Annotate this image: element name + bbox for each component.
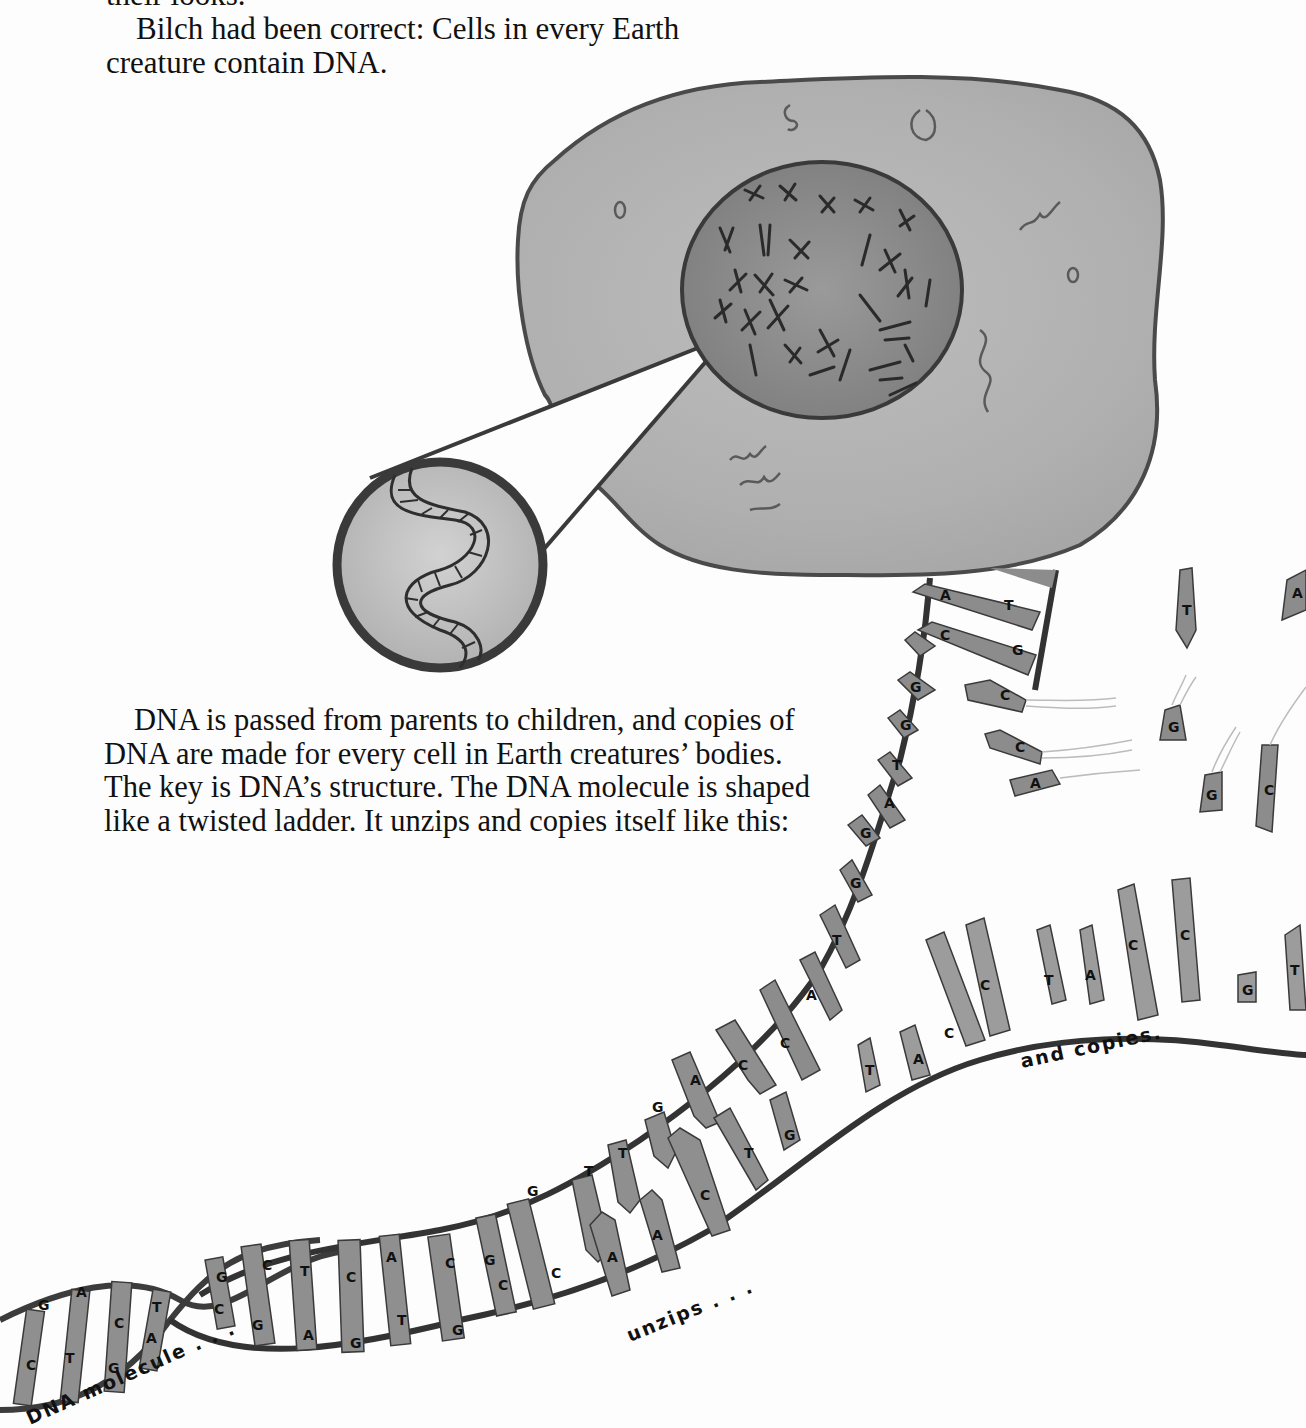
dna-illustration: G C A T C G T A G C C G T A C G A T C G bbox=[0, 0, 1306, 1428]
base-letter: A bbox=[806, 987, 817, 1003]
caption-dna-molecule: DNA molecule . . . bbox=[23, 1316, 239, 1428]
base-letter: C bbox=[1180, 927, 1190, 943]
base-letter: C bbox=[262, 1257, 272, 1273]
base-letter: T bbox=[1290, 962, 1300, 978]
base-letter: G bbox=[1242, 982, 1254, 998]
base-letter: G bbox=[784, 1127, 796, 1143]
base-letter: G bbox=[452, 1322, 464, 1338]
base-letter: G bbox=[484, 1252, 496, 1268]
base-letter: G bbox=[216, 1269, 228, 1285]
base-letter: C bbox=[498, 1277, 508, 1293]
dna-ladder-icon: G C A T C G T A G C C G T A C G A T C G bbox=[0, 568, 1306, 1428]
base-letter: C bbox=[214, 1301, 224, 1317]
base-letter: C bbox=[346, 1269, 356, 1285]
caption-unzips: unzips . . . bbox=[623, 1275, 756, 1346]
base-letter: C bbox=[1264, 782, 1274, 798]
base-letter: G bbox=[350, 1335, 362, 1351]
base-letter: C bbox=[1015, 739, 1025, 755]
caption-and-copies: and copies. bbox=[1018, 1020, 1164, 1072]
magnified-dna-icon bbox=[337, 462, 543, 668]
base-letter: A bbox=[386, 1249, 397, 1265]
base-letter: C bbox=[700, 1187, 710, 1203]
base-letter: T bbox=[1004, 597, 1014, 613]
base-letter: C bbox=[551, 1265, 561, 1281]
base-letter: C bbox=[445, 1255, 455, 1271]
base-letter: G bbox=[1206, 787, 1218, 803]
base-letter: A bbox=[1030, 775, 1041, 791]
base-letter: G bbox=[252, 1317, 264, 1333]
base-letter: A bbox=[690, 1072, 701, 1088]
base-letter: A bbox=[146, 1330, 157, 1346]
base-letter: G bbox=[1168, 719, 1180, 735]
base-letter: T bbox=[397, 1312, 407, 1328]
base-letter: A bbox=[607, 1249, 618, 1265]
base-letter: A bbox=[913, 1051, 924, 1067]
base-letter: G bbox=[850, 875, 862, 891]
base-letter: C bbox=[980, 977, 990, 993]
base-letter: G bbox=[652, 1099, 664, 1115]
base-letter: T bbox=[892, 757, 902, 773]
base-letter: T bbox=[152, 1299, 162, 1315]
base-letter: T bbox=[300, 1263, 310, 1279]
base-letter: C bbox=[26, 1357, 36, 1373]
base-letter: A bbox=[1085, 967, 1096, 983]
base-letter: G bbox=[900, 717, 912, 733]
base-letter: A bbox=[76, 1284, 87, 1300]
base-letter: C bbox=[1128, 937, 1138, 953]
base-letter: C bbox=[1000, 687, 1010, 703]
base-letter: A bbox=[303, 1327, 314, 1343]
book-page: their looks. Bilch had been correct: Cel… bbox=[0, 0, 1306, 1428]
base-letter: A bbox=[652, 1227, 663, 1243]
base-letter: G bbox=[860, 825, 872, 841]
base-letter: C bbox=[944, 1025, 954, 1041]
base-letter: T bbox=[832, 932, 842, 948]
base-letter: G bbox=[527, 1183, 539, 1199]
base-letter: A bbox=[884, 795, 895, 811]
base-letter: T bbox=[584, 1163, 594, 1179]
base-letter: C bbox=[114, 1315, 124, 1331]
base-letter: G bbox=[38, 1297, 50, 1313]
base-letter: T bbox=[744, 1145, 754, 1161]
base-letter: T bbox=[1044, 972, 1054, 988]
base-letter: A bbox=[1292, 585, 1303, 601]
base-letter: T bbox=[865, 1062, 875, 1078]
base-letter: T bbox=[618, 1145, 628, 1161]
base-letter: C bbox=[780, 1035, 790, 1051]
base-letter: T bbox=[65, 1350, 75, 1366]
base-letter: G bbox=[910, 679, 922, 695]
base-letter: C bbox=[940, 627, 950, 643]
base-letter: G bbox=[1012, 642, 1024, 658]
base-letter: C bbox=[738, 1057, 748, 1073]
base-letter: T bbox=[1182, 602, 1192, 618]
base-letter: A bbox=[940, 587, 951, 603]
